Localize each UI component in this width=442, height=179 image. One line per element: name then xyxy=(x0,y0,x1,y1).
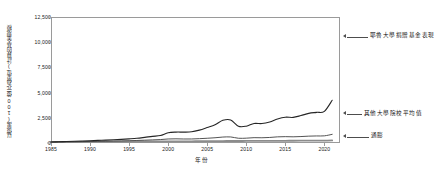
x-tick-mark xyxy=(51,143,52,146)
x-tick-mark xyxy=(168,143,169,146)
x-tick-label: 2020 xyxy=(318,146,330,152)
x-tick-mark xyxy=(285,143,286,146)
x-tick-label: 2010 xyxy=(240,146,252,152)
endowment-growth-chart: 以億萬(100億元為單位)計算的基金規模 12,50010,0007,5005,… xyxy=(0,0,442,179)
x-tick-mark xyxy=(90,143,91,146)
x-tick-mark xyxy=(246,143,247,146)
x-tick-label: 1995 xyxy=(123,146,135,152)
x-tick-label: 1990 xyxy=(84,146,96,152)
x-axis-ticks: 19851990199520002005201020152020 xyxy=(0,0,442,179)
x-tick-label: 1985 xyxy=(45,146,57,152)
x-tick-mark xyxy=(324,143,325,146)
x-tick-mark xyxy=(129,143,130,146)
average-leader-line xyxy=(347,114,362,115)
x-tick-label: 2005 xyxy=(201,146,213,152)
yale-arrow-icon xyxy=(343,34,346,38)
x-tick-label: 2015 xyxy=(279,146,291,152)
inflation-annotation: 通膨 xyxy=(371,131,384,139)
x-axis-title: 年份 xyxy=(195,156,208,164)
yale-leader-line xyxy=(347,37,368,38)
inflation-arrow-icon xyxy=(343,134,346,138)
yale-annotation: 耶魯大學捐贈基金表現 xyxy=(370,31,435,39)
x-tick-mark xyxy=(207,143,208,146)
average-arrow-icon xyxy=(343,111,346,115)
x-tick-label: 2000 xyxy=(162,146,174,152)
average-annotation: 其他大學院校平均值 xyxy=(364,109,422,117)
inflation-leader-line xyxy=(347,137,369,138)
